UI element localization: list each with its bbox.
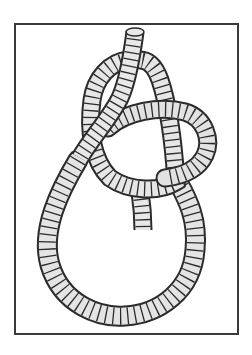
- knot-illustration: [0, 0, 252, 355]
- cross-loop-rope: [108, 109, 208, 178]
